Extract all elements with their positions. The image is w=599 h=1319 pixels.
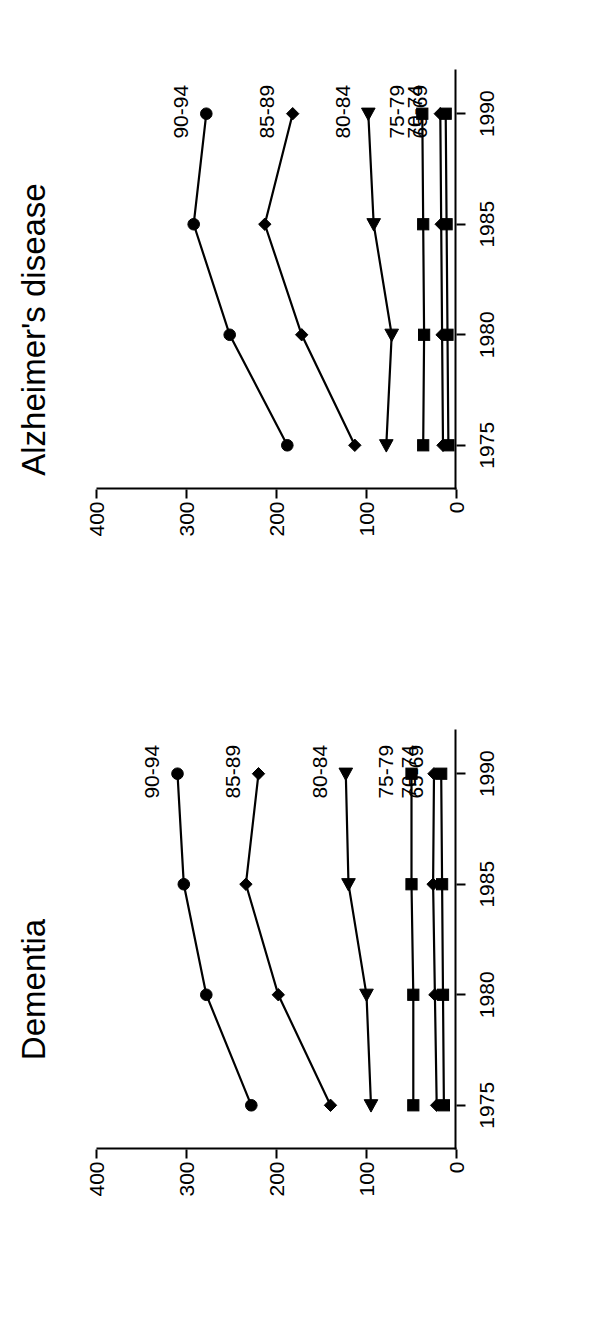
x-tick	[456, 883, 465, 885]
series-label-80-84: 80-84	[308, 744, 329, 798]
y-tick-label: 400	[85, 1161, 106, 1215]
y-tick-label: 0	[445, 1161, 466, 1215]
x-tick-label: 1975	[475, 1070, 496, 1140]
x-tick	[456, 772, 465, 774]
y-tick	[455, 1149, 457, 1158]
y-tick-label: 300	[175, 1161, 196, 1215]
y-tick	[455, 489, 457, 498]
rotated-figure-wrapper: Dementia 0100200300400197519801985199090…	[0, 0, 599, 1319]
x-tick-label: 1985	[475, 189, 496, 259]
x-tick	[456, 112, 465, 114]
panel-dementia: Dementia 0100200300400197519801985199090…	[0, 679, 599, 1299]
y-tick	[365, 1149, 367, 1158]
x-tick-label: 1975	[475, 410, 496, 480]
figure-page: Dementia 0100200300400197519801985199090…	[0, 0, 599, 1319]
x-tick	[456, 223, 465, 225]
panel-title-alzheimer: Alzheimer's disease	[14, 19, 52, 639]
series-label-65-69: 65-69	[408, 84, 429, 138]
x-tick-label: 1980	[475, 959, 496, 1029]
series-label-80-84: 80-84	[331, 84, 352, 138]
panel-alzheimer: Alzheimer's disease 01002003004001975198…	[0, 19, 599, 639]
x-tick-label: 1990	[475, 78, 496, 148]
x-tick-label: 1980	[475, 299, 496, 369]
y-tick-label: 100	[355, 1161, 376, 1215]
y-tick-label: 300	[175, 501, 196, 555]
y-tick	[185, 489, 187, 498]
series-label-85-89: 85-89	[221, 744, 242, 798]
series-label-85-89: 85-89	[255, 84, 276, 138]
panel-title-dementia: Dementia	[14, 679, 52, 1299]
x-tick	[456, 1104, 465, 1106]
y-tick	[95, 1149, 97, 1158]
y-tick-label: 400	[85, 501, 106, 555]
y-tick	[365, 489, 367, 498]
y-tick	[185, 1149, 187, 1158]
y-tick-label: 100	[355, 501, 376, 555]
y-tick	[95, 489, 97, 498]
plot-area-dementia: 0100200300400197519801985199090-9485-898…	[96, 729, 456, 1149]
x-tick	[456, 333, 465, 335]
y-tick	[275, 489, 277, 498]
x-tick	[456, 993, 465, 995]
plot-area-alzheimer: 0100200300400197519801985199090-9485-898…	[96, 69, 456, 489]
y-tick-label: 200	[265, 501, 286, 555]
x-tick	[456, 444, 465, 446]
series-label-90-94: 90-94	[169, 84, 190, 138]
two-panel-line-chart: Dementia 0100200300400197519801985199090…	[0, 0, 599, 1319]
y-tick-label: 200	[265, 1161, 286, 1215]
series-label-75-79: 75-79	[374, 744, 395, 798]
x-tick-label: 1985	[475, 849, 496, 919]
y-tick-label: 0	[445, 501, 466, 555]
y-tick	[275, 1149, 277, 1158]
series-label-90-94: 90-94	[140, 744, 161, 798]
x-tick-label: 1990	[475, 738, 496, 808]
series-label-65-69: 65-69	[404, 744, 425, 798]
